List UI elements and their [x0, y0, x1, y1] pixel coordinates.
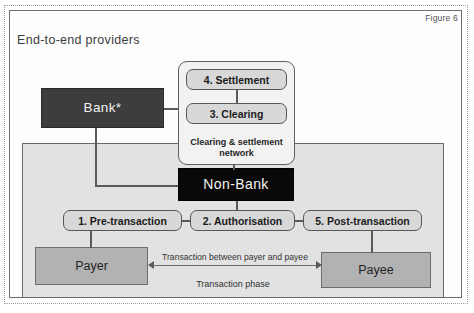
- connector-bank-to-network: [164, 108, 179, 110]
- node-non-bank[interactable]: Non-Bank: [178, 168, 294, 201]
- transaction-arrow-line: [152, 265, 318, 266]
- arrow-head-left-icon: [148, 261, 154, 269]
- connector-bank-drop: [95, 128, 97, 186]
- transaction-arrow-label: Transaction between payer and payee: [148, 252, 322, 262]
- connector-network-to-nonbank: [233, 165, 235, 170]
- connector-bank-to-nonbank: [95, 185, 179, 187]
- node-payee[interactable]: Payee: [321, 252, 431, 288]
- node-payer[interactable]: Payer: [35, 247, 148, 285]
- arrow-head-right-icon: [316, 261, 322, 269]
- connector-pre-to-payer: [90, 231, 92, 248]
- node-settlement[interactable]: 4. Settlement: [186, 69, 287, 90]
- connector-nonbank-to-authorisation: [236, 201, 238, 210]
- node-clearing[interactable]: 3. Clearing: [186, 103, 287, 124]
- connector-pre-to-authorisation: [182, 220, 190, 222]
- figure-diagram: Figure 6 End-to-end providers Transactio…: [0, 0, 474, 313]
- connector-authorisation-to-post: [295, 220, 303, 222]
- node-bank[interactable]: Bank*: [41, 88, 164, 128]
- node-post-transaction[interactable]: 5. Post-transaction: [303, 210, 422, 231]
- connector-settlement-to-clearing: [236, 90, 238, 103]
- transaction-arrow: Transaction between payer and payee: [148, 252, 322, 274]
- network-caption: Clearing & settlement network: [183, 137, 290, 160]
- connector-post-to-payee: [371, 231, 373, 253]
- node-authorisation[interactable]: 2. Authorisation: [190, 210, 295, 231]
- node-pre-transaction[interactable]: 1. Pre-transaction: [63, 210, 182, 231]
- figure-number-label: Figure 6: [425, 13, 458, 23]
- figure-title: End-to-end providers: [17, 33, 140, 47]
